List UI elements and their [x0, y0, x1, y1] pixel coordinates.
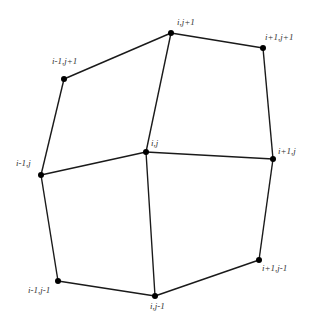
- mesh-edge: [171, 33, 263, 48]
- mesh-node: [152, 293, 158, 299]
- node-label: i+1,j-1: [262, 263, 287, 273]
- mesh-edge: [146, 33, 171, 152]
- node-label: i-1,j+1: [52, 56, 77, 66]
- mesh-edge: [146, 152, 155, 296]
- mesh-node: [143, 149, 149, 155]
- mesh-edge: [41, 79, 64, 175]
- mesh-nodes: [38, 30, 276, 299]
- node-label: i,j: [151, 138, 159, 148]
- mesh-edge: [64, 33, 171, 79]
- node-label: i-1,j-1: [28, 285, 50, 295]
- mesh-edge: [263, 48, 273, 159]
- node-labels: i,ji+1,ji-1,ji,j+1i,j-1i+1,j+1i-1,j+1i-1…: [16, 17, 296, 311]
- mesh-edge: [146, 152, 273, 159]
- mesh-node: [260, 45, 266, 51]
- mesh-edge: [259, 159, 273, 260]
- mesh-node: [270, 156, 276, 162]
- mesh-node: [38, 172, 44, 178]
- node-label: i+1,j+1: [265, 32, 293, 42]
- mesh-edge: [41, 175, 58, 281]
- mesh-node: [55, 278, 61, 284]
- mesh-edges: [41, 33, 273, 296]
- mesh-node: [168, 30, 174, 36]
- node-label: i,j+1: [177, 17, 195, 27]
- mesh-node: [61, 76, 67, 82]
- mesh-edge: [58, 281, 155, 296]
- node-label: i+1,j: [278, 146, 296, 156]
- node-label: i-1,j: [16, 158, 31, 168]
- mesh-edge: [41, 152, 146, 175]
- mesh-edge: [155, 260, 259, 296]
- node-label: i,j-1: [150, 301, 165, 311]
- mesh-stencil-diagram: i,ji+1,ji-1,ji,j+1i,j-1i+1,j+1i-1,j+1i-1…: [0, 0, 309, 326]
